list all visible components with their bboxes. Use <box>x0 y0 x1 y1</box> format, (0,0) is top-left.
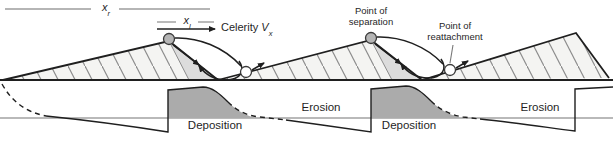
x-l-label: xl <box>176 15 198 29</box>
diagram-canvas <box>0 0 613 152</box>
reattachment-point-marker-2 <box>445 65 456 76</box>
reattachment-point-marker-1 <box>241 67 252 78</box>
x-r-symbol: x <box>102 1 108 13</box>
separation-label: Point of separation <box>337 5 405 27</box>
separation-label-line1: Point of <box>337 5 405 16</box>
reattachment-label: Point of reattachment <box>415 20 495 42</box>
x-r-subscript: r <box>108 9 111 18</box>
x-r-label: xr <box>93 2 119 16</box>
celerity-label: Celerity Vx <box>221 22 272 36</box>
erosion-label-left: Erosion <box>291 101 351 113</box>
erosion-label-right: Erosion <box>509 101 571 113</box>
reattachment-leader-line <box>450 45 453 63</box>
deposition-area-2 <box>371 86 459 118</box>
x-l-subscript: l <box>189 22 191 31</box>
celerity-subscript: x <box>269 29 273 38</box>
curve-dashed-start <box>2 84 46 116</box>
celerity-symbol: V <box>261 21 268 33</box>
separation-point-marker-2 <box>366 33 377 44</box>
deposition-label-right: Deposition <box>373 119 445 131</box>
deposition-area-1 <box>168 87 256 118</box>
separation-point-marker-1 <box>164 34 175 45</box>
reattachment-label-line2: reattachment <box>415 31 495 42</box>
reattachment-label-line1: Point of <box>415 20 495 31</box>
dune-migration-figure: xr xl Celerity Vx Point of separation Po… <box>0 0 613 152</box>
celerity-word: Celerity <box>221 21 258 33</box>
separation-label-line2: separation <box>337 16 405 27</box>
deposition-label-left: Deposition <box>180 119 250 131</box>
